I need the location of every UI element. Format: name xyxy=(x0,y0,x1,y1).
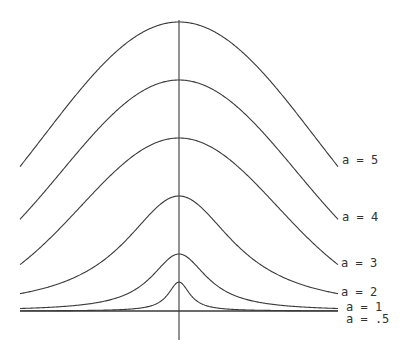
bell-curves-chart xyxy=(0,0,404,353)
curve-label: a = 5 xyxy=(342,154,378,166)
curve-label: a = .5 xyxy=(346,313,389,325)
curve-label: a = 4 xyxy=(342,211,378,223)
curve-label: a = 3 xyxy=(341,257,377,269)
curve-label: a = 2 xyxy=(341,286,377,298)
